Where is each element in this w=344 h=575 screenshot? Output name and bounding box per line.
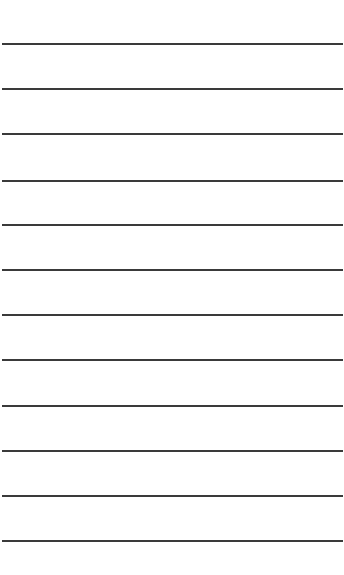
ruled-line (2, 88, 343, 90)
ruled-line (2, 269, 343, 271)
ruled-line (2, 133, 343, 135)
ruled-line (2, 314, 343, 316)
lined-paper-page (0, 0, 344, 575)
ruled-line (2, 495, 343, 497)
ruled-line (2, 359, 343, 361)
ruled-line (2, 540, 343, 542)
ruled-line (2, 224, 343, 226)
ruled-line (2, 450, 343, 452)
ruled-line (2, 180, 343, 182)
ruled-line (2, 405, 343, 407)
ruled-line (2, 43, 343, 45)
